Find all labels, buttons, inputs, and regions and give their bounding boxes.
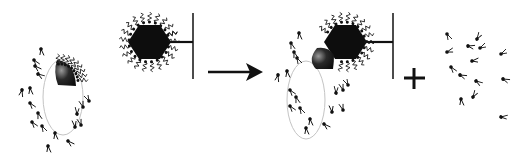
- molecule: [37, 47, 46, 57]
- molecule: [338, 103, 346, 112]
- molecule: [449, 64, 457, 73]
- molecule: [84, 95, 91, 103]
- ligand: [119, 44, 131, 50]
- molecule: [295, 31, 304, 41]
- molecule: [33, 63, 42, 73]
- reaction-arrow-icon: [208, 63, 263, 81]
- molecule: [478, 43, 486, 50]
- ligand: [350, 58, 358, 70]
- ligand: [166, 30, 178, 38]
- molecule: [327, 105, 336, 115]
- ligand: [166, 45, 178, 52]
- particle-on-support: [119, 12, 193, 79]
- molecule: [288, 103, 296, 112]
- ligand: [122, 49, 134, 58]
- molecule: [35, 111, 43, 120]
- ligand: [76, 78, 88, 83]
- molecule: [473, 32, 483, 42]
- ligand: [147, 12, 151, 24]
- molecule: [445, 32, 452, 40]
- ligand: [153, 13, 160, 25]
- ligand: [149, 60, 154, 72]
- molecule: [445, 47, 454, 55]
- molecule: [66, 138, 75, 148]
- bound-complex: [273, 12, 393, 139]
- ligand: [158, 16, 168, 28]
- molecule: [30, 119, 38, 128]
- molecule: [36, 70, 46, 80]
- molecule: [17, 87, 27, 97]
- molecule: [298, 106, 305, 114]
- molecule: [302, 126, 311, 136]
- ligand: [362, 45, 374, 52]
- ligand: [127, 54, 138, 65]
- molecule: [470, 56, 480, 65]
- molecule: [40, 124, 47, 132]
- molecule: [76, 118, 84, 127]
- molecule: [469, 90, 479, 100]
- ligand: [355, 18, 365, 29]
- ligand: [164, 50, 176, 59]
- molecule: [338, 83, 346, 92]
- ligand: [359, 50, 371, 60]
- ligand: [155, 58, 163, 70]
- molecule: [273, 72, 283, 82]
- ligand: [359, 24, 371, 34]
- ligand: [119, 37, 131, 42]
- molecule: [343, 79, 350, 87]
- ligand: [125, 21, 136, 31]
- molecule: [288, 41, 296, 50]
- molecule: [28, 100, 36, 109]
- molecule: [457, 70, 467, 80]
- plus-icon: [404, 68, 425, 89]
- ligand: [345, 12, 350, 24]
- molecule: [499, 49, 507, 56]
- ligand: [131, 16, 141, 28]
- molecule: [293, 95, 301, 104]
- ligand: [142, 60, 148, 72]
- molecule: [78, 100, 86, 109]
- molecule: [457, 97, 466, 107]
- molecule: [306, 117, 315, 127]
- molecule: [465, 41, 475, 51]
- molecule: [26, 86, 35, 96]
- ligand: [318, 25, 330, 34]
- molecule: [72, 106, 82, 116]
- reaction-diagram: [0, 0, 527, 156]
- molecule: [331, 85, 341, 95]
- ligand: [362, 31, 374, 38]
- molecule: [500, 74, 510, 84]
- molecule: [322, 121, 331, 131]
- molecule: [44, 144, 53, 154]
- free-molecules: [445, 32, 511, 122]
- ligand: [330, 14, 339, 26]
- ligand: [338, 12, 344, 24]
- molecule: [499, 112, 509, 122]
- ligand: [345, 60, 350, 72]
- molecule: [288, 87, 296, 96]
- ligand: [139, 13, 146, 25]
- molecule: [474, 77, 484, 87]
- molecule: [51, 131, 60, 141]
- cell-left: [17, 47, 91, 154]
- ligand: [338, 60, 344, 72]
- molecule: [70, 120, 79, 130]
